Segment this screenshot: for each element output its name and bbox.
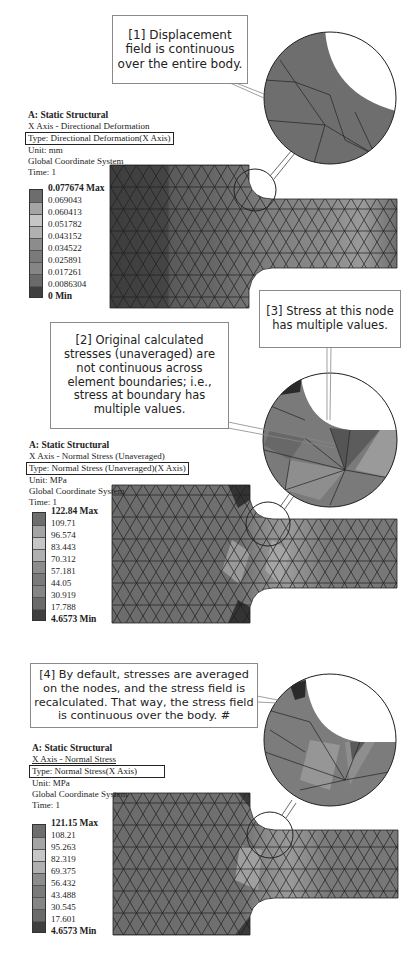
unaveraged-stress-info: A: Static Structural X Axis - Normal Str… <box>29 440 189 508</box>
legend-value: 69.375 <box>51 866 76 876</box>
legend-value: 0.043152 <box>48 231 82 241</box>
legend-max: 0.077674 Max <box>48 183 104 193</box>
legend-min: 4.6573 Min <box>51 926 96 936</box>
deformation-magnifier-circle <box>260 30 400 170</box>
info-title: A: Static Structural <box>28 110 174 121</box>
legend-value: 0.0086304 <box>48 279 86 289</box>
legend-value: 17.601 <box>51 914 76 924</box>
legend-value: 56.432 <box>51 878 76 888</box>
legend-value: 17.788 <box>51 602 76 612</box>
legend-value: 96.574 <box>51 530 76 540</box>
info-unit: Unit: mm <box>28 145 174 156</box>
info-subtitle: X Axis - Normal Stress <box>32 754 165 765</box>
callout-4-text: [4] By default, stresses are averaged on… <box>34 668 254 722</box>
info-subtitle: X Axis - Normal Stress (Unaveraged) <box>29 451 189 462</box>
info-time: Time: 1 <box>28 167 174 178</box>
info-title: A: Static Structural <box>32 743 165 754</box>
callout-1: [1] Displacement field is continuous ove… <box>112 15 248 84</box>
legend-color-bar <box>32 512 46 621</box>
legend-value: 0.051782 <box>48 219 82 229</box>
legend-color-bar <box>29 189 43 298</box>
legend-value: 44.05 <box>51 578 71 588</box>
legend-value: 0.060413 <box>48 207 82 217</box>
info-title: A: Static Structural <box>29 440 189 451</box>
legend-min: 4.6573 Min <box>51 614 96 624</box>
info-coord: Global Coordinate System <box>28 156 174 167</box>
legend-value: 0.069043 <box>48 195 82 205</box>
averaged-stress-mesh <box>113 793 398 935</box>
info-type: Type: Directional Deformation(X Axis) <box>25 132 174 145</box>
legend-min: 0 Min <box>48 291 72 301</box>
legend-value: 0.034522 <box>48 243 82 253</box>
legend-color-bar <box>32 824 46 933</box>
legend-value: 83.443 <box>51 542 76 552</box>
legend-value: 95.263 <box>51 842 76 852</box>
legend-value: 57.181 <box>51 566 76 576</box>
info-coord: Global Coordinate System <box>32 789 165 800</box>
legend-max: 121.15 Max <box>51 818 98 828</box>
callout-1-text: [1] Displacement field is continuous ove… <box>116 28 244 71</box>
info-coord: Global Coordinate System <box>29 486 189 497</box>
info-subtitle: X Axis - Directional Deformation <box>28 121 174 132</box>
averaged-stress-magnifier-circle <box>260 670 400 810</box>
callout-2: [2] Original calculated stresses (unaver… <box>50 322 229 429</box>
legend-max: 122.84 Max <box>51 506 98 516</box>
legend-value: 82.319 <box>51 854 76 864</box>
legend-value: 43.488 <box>51 890 76 900</box>
info-unit: Unit: MPa <box>32 778 165 789</box>
info-unit: Unit: MPa <box>29 475 189 486</box>
legend-value: 0.025891 <box>48 255 82 265</box>
deformation-info: A: Static Structural X Axis - Directiona… <box>28 110 174 178</box>
info-type: Type: Normal Stress (Unaveraged)(X Axis) <box>26 462 189 475</box>
legend-value: 108.21 <box>51 830 76 840</box>
info-time: Time: 1 <box>32 800 165 811</box>
averaged-stress-info: A: Static Structural X Axis - Normal Str… <box>32 743 165 811</box>
callout-4: [4] By default, stresses are averaged on… <box>30 663 258 728</box>
legend-value: 30.919 <box>51 590 76 600</box>
legend-value: 30.545 <box>51 902 76 912</box>
callout-3-text: [3] Stress at this node has multiple val… <box>263 305 397 333</box>
info-type: Type: Normal Stress(X Axis) <box>29 765 165 778</box>
callout-3: [3] Stress at this node has multiple val… <box>259 290 401 348</box>
legend-value: 109.71 <box>51 518 76 528</box>
legend-value: 0.017261 <box>48 267 82 277</box>
legend-value: 70.312 <box>51 554 76 564</box>
callout-2-text: [2] Original calculated stresses (unaver… <box>55 334 224 417</box>
